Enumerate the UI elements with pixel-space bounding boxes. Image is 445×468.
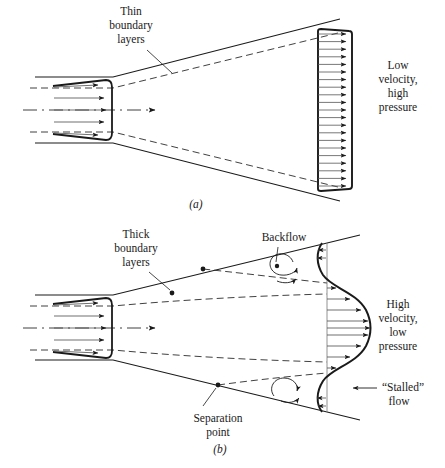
thick-boundary-layers-line-2: layers xyxy=(122,256,150,269)
backflow-label: Backflow xyxy=(262,231,307,243)
caption-b: (b) xyxy=(213,443,227,456)
high-velocity-line-1: velocity, xyxy=(378,312,417,325)
separation-point-line-1: point xyxy=(206,426,230,439)
thick-bl-dot-upper xyxy=(201,267,206,272)
thin-boundary-layers-line-1: boundary xyxy=(109,19,153,32)
thick-bl-dot-lower xyxy=(170,291,175,296)
low-velocity-line-1: velocity, xyxy=(378,73,417,86)
thick-boundary-layers-line-0: Thick xyxy=(123,228,150,240)
stalled-flow-line-0: “Stalled” xyxy=(382,381,424,393)
caption-a: (a) xyxy=(189,198,203,211)
stalled-flow-line-1: flow xyxy=(388,395,410,407)
separation-point-line-0: Separation xyxy=(193,412,242,425)
separation-point-dot xyxy=(216,383,221,388)
high-velocity-line-3: pressure xyxy=(379,340,417,353)
diffuser-diagram-svg: Thin boundary layers Low velocity, high … xyxy=(0,0,445,468)
high-velocity-line-0: High xyxy=(387,298,410,311)
low-velocity-line-2: high xyxy=(388,87,409,100)
low-velocity-line-0: Low xyxy=(387,59,409,71)
background xyxy=(0,0,445,468)
thick-boundary-layers-line-1: boundary xyxy=(114,242,158,255)
thin-boundary-layers-line-2: layers xyxy=(117,33,145,46)
figure-canvas: Thin boundary layers Low velocity, high … xyxy=(0,0,445,468)
high-velocity-line-2: low xyxy=(389,326,407,338)
low-velocity-line-3: pressure xyxy=(379,101,417,114)
thin-boundary-layers-line-0: Thin xyxy=(120,5,142,17)
